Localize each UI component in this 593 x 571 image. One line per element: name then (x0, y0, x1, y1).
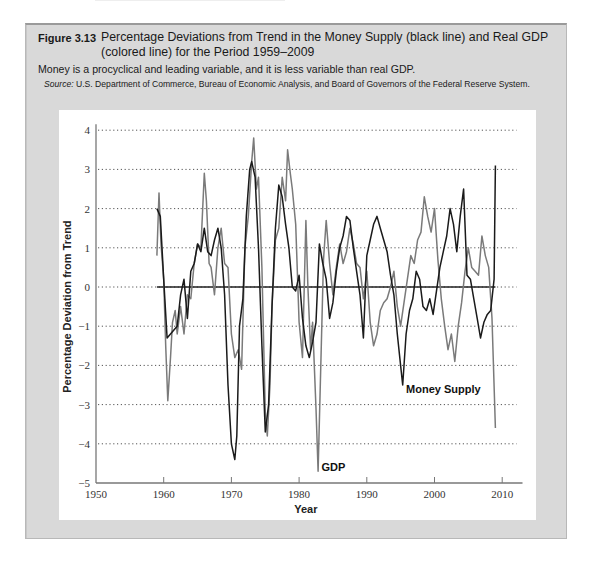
x-tick-label: 1990 (356, 488, 379, 500)
figure-caption: Figure 3.13 Percentage Deviations from T… (38, 30, 558, 89)
figure-title-row: Figure 3.13 Percentage Deviations from T… (38, 30, 558, 60)
x-tick-label: 2010 (491, 488, 514, 500)
x-axis-title: Year (294, 503, 318, 515)
y-tick-label: 1 (85, 242, 91, 254)
y-tick-label: 0 (85, 281, 91, 293)
y-tick-label: −3 (78, 399, 90, 411)
source-label: Source: (44, 79, 74, 89)
money-supply-label: Money Supply (406, 383, 481, 395)
chart-panel: 43210−1−2−3−4−51950196019701980199020002… (59, 110, 536, 520)
y-tick-label: −4 (78, 438, 90, 450)
chart-labels: Year Percentage Deviation from Trend Mon… (61, 220, 482, 515)
line-chart: 43210−1−2−3−4−51950196019701980199020002… (59, 110, 536, 520)
gdp-label: GDP (321, 461, 345, 473)
x-tick-label: 1960 (153, 488, 176, 500)
x-tick-label: 2000 (424, 488, 447, 500)
figure-title: Percentage Deviations from Trend in the … (101, 30, 558, 60)
x-tick-label: 1970 (220, 488, 243, 500)
gdp-line (157, 138, 496, 471)
money-supply-line (157, 162, 496, 460)
y-tick-label: 4 (85, 124, 91, 136)
x-tick-label: 1950 (85, 488, 108, 500)
figure-source: Source: U.S. Department of Commerce, Bur… (44, 79, 558, 89)
y-tick-label: −2 (78, 359, 90, 371)
figure-subtitle: Money is a procyclical and leading varia… (38, 63, 558, 75)
series-lines (157, 138, 496, 471)
x-tick-label: 1980 (288, 488, 311, 500)
y-tick-label: 2 (85, 203, 91, 215)
y-tick-label: 3 (85, 163, 91, 175)
y-tick-label: −1 (78, 320, 90, 332)
clipped-previous-text (95, 0, 285, 1)
source-text: U.S. Department of Commerce, Bureau of E… (76, 79, 530, 89)
y-axis-title: Percentage Deviation from Trend (61, 220, 73, 392)
figure-number: Figure 3.13 (38, 30, 96, 60)
